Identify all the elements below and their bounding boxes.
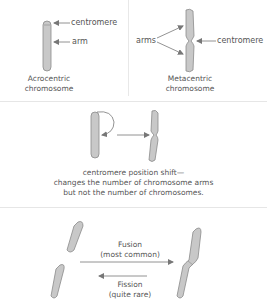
acro-arm-label: arm <box>72 37 88 47</box>
shift-caption: centromere position shift— changes the n… <box>20 168 247 198</box>
metacentric-chromosome <box>186 9 194 72</box>
fission-chromosome-lower <box>51 265 64 299</box>
shift-curved-arrow <box>97 112 114 135</box>
acro-caption: Acrocentric chromosome <box>14 74 84 94</box>
meta-arms-arrow-down <box>157 42 183 54</box>
shift-acrocentric-chromosome <box>91 112 99 158</box>
fused-chromosome <box>177 228 201 298</box>
meta-arms-label: arms <box>136 36 156 46</box>
fission-chromosome-upper <box>67 222 83 253</box>
diagram-canvas <box>0 0 267 308</box>
fission-label: Fission (quite rare) <box>90 280 170 300</box>
meta-centromere-label: centromere <box>217 36 263 46</box>
acrocentric-chromosome <box>43 21 51 71</box>
meta-caption: Metacentric chromosome <box>155 74 225 94</box>
fusion-label: Fusion (most common) <box>90 240 170 260</box>
acro-centromere-label: centromere <box>71 18 117 28</box>
shift-metacentric-chromosome <box>149 110 158 161</box>
meta-arms-arrow-up <box>157 26 183 38</box>
